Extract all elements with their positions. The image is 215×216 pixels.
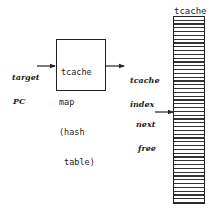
tcache-array-title: tcache — [174, 6, 207, 16]
target-pc-line1: target — [12, 73, 39, 81]
next-free-line2: free — [136, 144, 156, 152]
target-pc-line2: PC — [12, 97, 39, 105]
tcache-array — [173, 16, 205, 204]
tcache-map-box: tcache map (hash table) — [56, 39, 106, 91]
tcache-index-line1: tcache — [130, 76, 160, 84]
target-pc-label: target PC — [12, 57, 39, 113]
next-free-line1: next — [136, 120, 156, 128]
map-box-line-4: table) — [59, 157, 95, 167]
next-free-label: next free — [136, 104, 156, 160]
map-box-line-2: map — [59, 97, 95, 107]
tcache-map-box-text: tcache map (hash table) — [61, 47, 95, 187]
map-box-line-3: (hash — [59, 127, 95, 137]
map-box-line-1: tcache — [61, 67, 95, 77]
